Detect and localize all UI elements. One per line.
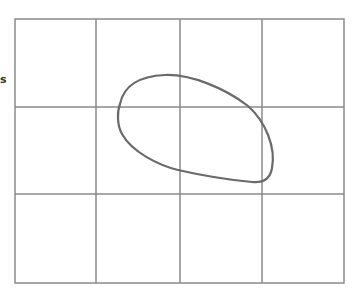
grid <box>15 19 344 283</box>
closed-loop-curve <box>118 75 273 182</box>
grid-diagram <box>0 0 363 297</box>
